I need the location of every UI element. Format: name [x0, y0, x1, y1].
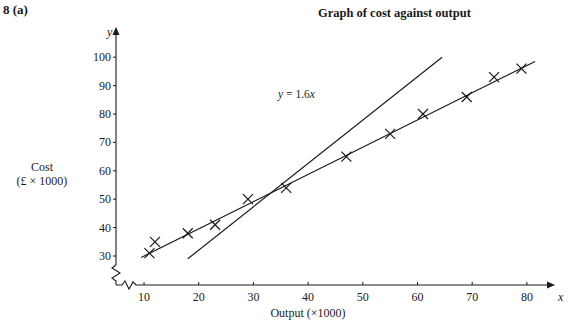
y-tick-label: 100 — [93, 50, 111, 64]
x-tick-label: 60 — [412, 290, 424, 304]
y-tick-label: 70 — [99, 135, 111, 149]
y-axis-title-line2: (£ × 1000) — [17, 174, 68, 188]
data-point-cross-icon — [183, 228, 193, 238]
x-axis-arrow-icon — [547, 282, 555, 289]
x-axis-title: Output (×1000) — [270, 306, 345, 320]
data-point-cross-icon — [281, 183, 291, 193]
best-fit-line — [141, 61, 535, 257]
chart-lines — [141, 57, 535, 259]
y-axis-title-line1: Cost — [31, 160, 54, 174]
y-axis-arrow-icon — [113, 27, 120, 35]
data-point-cross-icon — [385, 129, 395, 139]
x-tick-label: 20 — [193, 290, 205, 304]
y-tick-label: 90 — [99, 79, 111, 93]
x-axis-variable: x — [557, 290, 564, 304]
x-tick-label: 70 — [466, 290, 478, 304]
y-axis-variable: y — [106, 25, 113, 39]
y-tick-label: 80 — [99, 107, 111, 121]
data-point-cross-icon — [144, 248, 154, 258]
x-tick-label: 80 — [521, 290, 533, 304]
data-point-cross-icon — [243, 194, 253, 204]
x-tick-label: 10 — [138, 290, 150, 304]
x-tick-label: 30 — [247, 290, 259, 304]
data-point-cross-icon — [516, 64, 526, 74]
data-point-cross-icon — [150, 237, 160, 247]
cost-output-chart: 304050607080901001020304050607080 yxOutp… — [0, 0, 573, 331]
y-tick-label: 30 — [99, 249, 111, 263]
y-tick-label: 50 — [99, 192, 111, 206]
y-axis-break — [112, 265, 120, 285]
data-point-cross-icon — [489, 72, 499, 82]
x-tick-label: 40 — [302, 290, 314, 304]
x-axis-break — [116, 281, 136, 289]
y-tick-label: 60 — [99, 164, 111, 178]
line-annotation: y = 1.6x — [277, 88, 316, 101]
y-tick-label: 40 — [99, 221, 111, 235]
axes: 304050607080901001020304050607080 — [93, 27, 555, 304]
x-tick-label: 50 — [357, 290, 369, 304]
